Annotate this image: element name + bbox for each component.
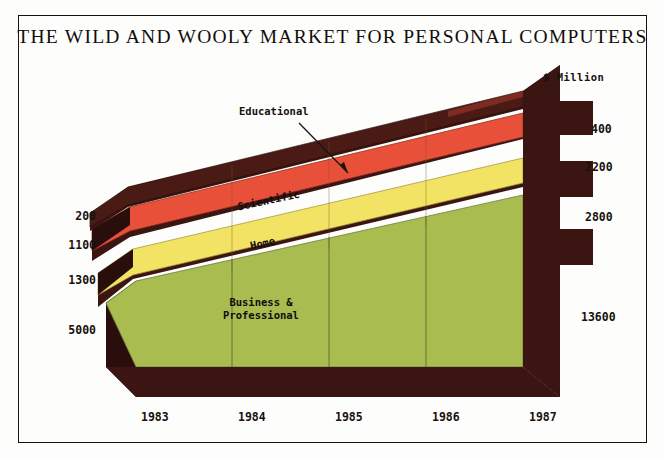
axis-year-1983: 1983	[141, 410, 169, 424]
axis-right-value-400: 400	[591, 122, 612, 136]
series-label-educational: Educational	[239, 105, 309, 117]
axis-left-value-5000: 5000	[48, 323, 96, 337]
series-label-business-line1: Business &	[229, 296, 292, 308]
chart-page: THE WILD AND WOOLY MARKET FOR PERSONAL C…	[0, 0, 665, 459]
series-label-business-line2: Professional	[223, 309, 299, 321]
axis-left-value-1100: 1100	[48, 238, 96, 252]
axis-year-1985: 1985	[335, 410, 363, 424]
axis-left-value-200: 200	[48, 209, 96, 223]
axis-right-value-13600: 13600	[581, 310, 616, 324]
right-step-block	[523, 65, 593, 397]
axis-unit-label: $ Million	[543, 71, 604, 83]
axis-left-value-1300: 1300	[48, 273, 96, 287]
axis-right-value-2800: 2800	[585, 210, 613, 224]
axis-year-1984: 1984	[238, 410, 266, 424]
axis-year-1986: 1986	[432, 410, 460, 424]
axis-right-value-2200: 2200	[585, 160, 613, 174]
axis-year-1987: 1987	[529, 410, 557, 424]
series-label-business: Business & Professional	[199, 296, 323, 322]
chart-base-strip	[106, 367, 560, 397]
